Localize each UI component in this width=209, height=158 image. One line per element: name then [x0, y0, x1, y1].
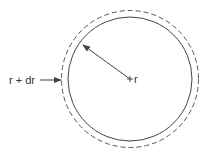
concentric-circles-diagram: r r + dr	[0, 0, 209, 158]
outer-radius-label: r + dr	[9, 74, 35, 86]
inner-radius-label: r	[134, 73, 138, 85]
radius-arrow	[83, 45, 130, 79]
